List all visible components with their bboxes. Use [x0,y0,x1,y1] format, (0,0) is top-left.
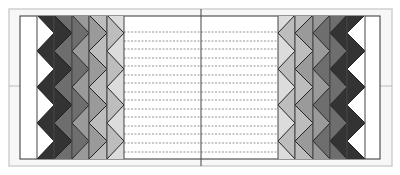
zigzag-strips-left [37,16,124,159]
zigzag-diagram [0,0,400,175]
zigzag-strips-right [278,16,365,159]
